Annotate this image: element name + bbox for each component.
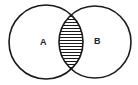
venn-diagram: A B [0,0,138,85]
set-a-label: A [40,37,47,47]
set-b-label: B [94,36,101,46]
